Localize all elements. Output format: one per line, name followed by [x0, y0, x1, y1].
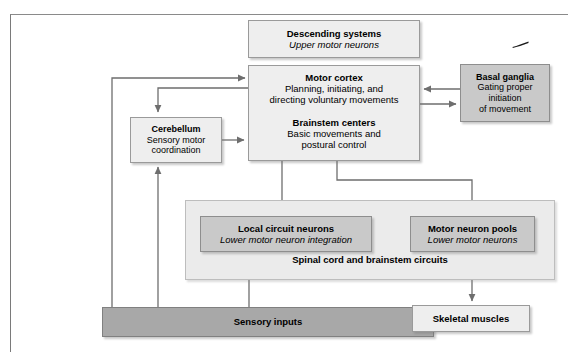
stray-mark-icon [512, 41, 529, 48]
motor-cortex-group: Motor cortex Planning, initiating, and d… [270, 72, 399, 106]
node-motor-cortex-brainstem[interactable]: Motor cortex Planning, initiating, and d… [248, 65, 420, 161]
cerebellum-line1: Sensory motor [147, 135, 206, 146]
descending-systems-subtitle: Upper motor neurons [289, 39, 379, 50]
basal-ganglia-line2: initiation [488, 93, 521, 104]
local-circuit-subtitle: Lower motor neuron integration [220, 234, 352, 245]
local-circuit-title: Local circuit neurons [238, 223, 334, 234]
descending-systems-title: Descending systems [287, 28, 382, 39]
cerebellum-title: Cerebellum [151, 124, 200, 135]
node-skeletal-muscles[interactable]: Skeletal muscles [412, 305, 530, 332]
node-local-circuit-neurons[interactable]: Local circuit neurons Lower motor neuron… [200, 216, 372, 252]
node-cerebellum[interactable]: Cerebellum Sensory motor coordination [130, 117, 222, 163]
node-basal-ganglia[interactable]: Basal ganglia Gating proper initiation o… [460, 64, 550, 122]
sensory-inputs-title: Sensory inputs [234, 316, 303, 327]
motor-cortex-title: Motor cortex [270, 72, 399, 83]
motor-cortex-line2: directing voluntary movements [270, 94, 399, 105]
motor-neuron-pools-title: Motor neuron pools [428, 223, 517, 234]
basal-ganglia-line1: Gating proper [477, 82, 532, 93]
brainstem-title: Brainstem centers [287, 117, 380, 128]
node-sensory-inputs[interactable]: Sensory inputs [102, 307, 434, 337]
diagram-canvas: Descending systems Upper motor neurons M… [0, 0, 569, 352]
cerebellum-line2: coordination [151, 145, 200, 156]
node-motor-neuron-pools[interactable]: Motor neuron pools Lower motor neurons [410, 216, 535, 252]
spinal-container-caption: Spinal cord and brainstem circuits [186, 254, 554, 265]
skeletal-muscles-title: Skeletal muscles [433, 313, 510, 324]
brainstem-line1: Basic movements and [287, 128, 380, 139]
brainstem-line2: postural control [287, 139, 380, 150]
basal-ganglia-title: Basal ganglia [476, 72, 534, 83]
motor-cortex-line1: Planning, initiating, and [270, 83, 399, 94]
node-descending-systems[interactable]: Descending systems Upper motor neurons [248, 20, 420, 58]
brainstem-group: Brainstem centers Basic movements and po… [287, 117, 380, 151]
basal-ganglia-line3: of movement [479, 104, 531, 115]
motor-neuron-pools-subtitle: Lower motor neurons [428, 234, 518, 245]
